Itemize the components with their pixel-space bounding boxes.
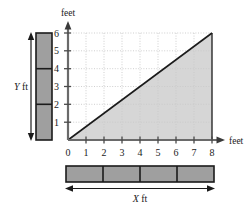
x-tick-label-6: 6 — [174, 147, 179, 158]
coordinate-plot-figure: 6 5 4 3 2 1 0 1 2 3 4 5 6 7 8 feet feet — [0, 0, 248, 207]
y-tick-label-2: 2 — [54, 99, 59, 110]
x-tick-label-4: 4 — [138, 147, 143, 158]
y-tick-label-6: 6 — [54, 28, 59, 39]
y-dimension-label: Y ft — [14, 81, 28, 92]
x-tick-label-0: 0 — [66, 147, 71, 158]
x-tick-label-5: 5 — [156, 147, 161, 158]
y-tick-label-3: 3 — [54, 81, 59, 92]
y-dimension-label-unit: ft — [19, 81, 28, 92]
x-axis-label: feet — [229, 136, 244, 146]
y-tick-label-1: 1 — [54, 117, 59, 128]
x-tick-label-2: 2 — [102, 147, 107, 158]
x-tick-label-1: 1 — [84, 147, 89, 158]
x-tick-label-7: 7 — [192, 147, 197, 158]
y-bar-body — [36, 33, 52, 140]
x-tick-label-3: 3 — [120, 147, 125, 158]
x-bar-group — [66, 166, 214, 182]
figure-container: 6 5 4 3 2 1 0 1 2 3 4 5 6 7 8 feet feet — [0, 0, 248, 207]
y-axis-label: feet — [61, 8, 76, 18]
x-dimension-label-unit: ft — [139, 193, 148, 204]
y-tick-label-5: 5 — [54, 45, 59, 56]
y-bar-group — [36, 33, 52, 140]
x-dimension-label: X ft — [132, 193, 148, 204]
y-tick-label-4: 4 — [54, 63, 59, 74]
x-tick-label-8: 8 — [210, 147, 215, 158]
